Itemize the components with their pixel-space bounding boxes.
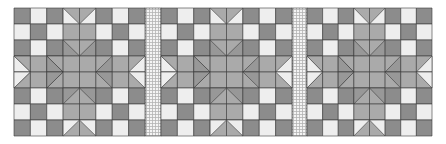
sashing-strip	[292, 8, 307, 136]
quilt-block	[307, 8, 432, 136]
quilt-pattern	[0, 0, 446, 144]
quilt-block	[161, 8, 292, 136]
sashing-strip	[145, 8, 161, 136]
quilt-block	[14, 8, 145, 136]
